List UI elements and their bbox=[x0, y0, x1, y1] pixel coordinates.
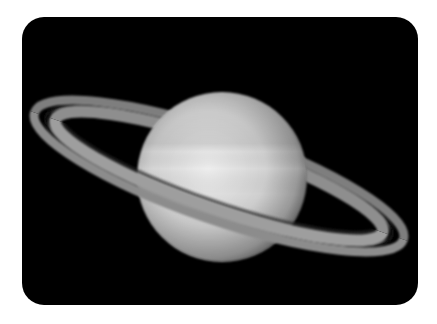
photo-frame bbox=[22, 17, 418, 305]
saturn-image bbox=[22, 17, 418, 305]
